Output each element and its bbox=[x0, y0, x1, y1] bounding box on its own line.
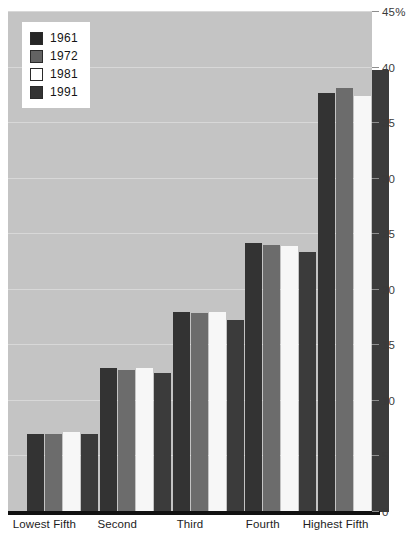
y-axis-tick-label: 45% bbox=[382, 5, 406, 19]
bar bbox=[299, 252, 316, 512]
legend-item-label: 1972 bbox=[50, 49, 78, 63]
bar bbox=[245, 243, 262, 512]
bar bbox=[136, 368, 153, 512]
y-axis-tick-label: 30 bbox=[382, 172, 395, 186]
legend-item-label: 1981 bbox=[50, 67, 78, 81]
legend-item: 1991 bbox=[30, 83, 78, 101]
tick-mark bbox=[372, 67, 379, 68]
x-axis-labels: Lowest FifthSecondThirdFourthHighest Fif… bbox=[8, 518, 372, 538]
bar-group bbox=[100, 12, 171, 512]
bar bbox=[27, 434, 44, 512]
y-axis-tick: 40 bbox=[372, 61, 408, 75]
tick-mark bbox=[372, 122, 379, 123]
x-axis-label: Lowest Fifth bbox=[8, 518, 81, 530]
y-axis-tick-label: 15 bbox=[382, 338, 395, 352]
bar bbox=[263, 245, 280, 512]
y-axis-tick-label: 25 bbox=[382, 227, 395, 241]
y-axis-tick-label: 5 bbox=[382, 449, 389, 463]
bar-group bbox=[173, 12, 244, 512]
tick-mark bbox=[372, 400, 379, 401]
y-axis-tick-label: 20 bbox=[382, 283, 395, 297]
tick-mark bbox=[372, 511, 379, 512]
x-axis-label: Highest Fifth bbox=[299, 518, 372, 530]
x-axis-label: Second bbox=[81, 518, 154, 530]
bar bbox=[63, 432, 80, 512]
y-axis-tick: 30 bbox=[372, 172, 408, 186]
tick-mark bbox=[372, 11, 379, 12]
legend-swatch bbox=[30, 32, 43, 45]
tick-mark bbox=[372, 289, 379, 290]
legend-swatch bbox=[30, 50, 43, 63]
legend-swatch bbox=[30, 68, 43, 81]
y-axis-tick: 45% bbox=[372, 5, 408, 19]
bar bbox=[336, 88, 353, 512]
y-axis-tick: 35 bbox=[372, 116, 408, 130]
y-axis-tick-label: 40 bbox=[382, 61, 395, 75]
legend-item: 1981 bbox=[30, 65, 78, 83]
tick-mark bbox=[372, 178, 379, 179]
y-axis-tick: 25 bbox=[372, 227, 408, 241]
y-axis-tick: 10 bbox=[372, 394, 408, 408]
bar bbox=[281, 246, 298, 512]
bar bbox=[173, 312, 190, 512]
legend: 1961197219811991 bbox=[22, 22, 90, 108]
x-axis-label: Third bbox=[154, 518, 227, 530]
x-axis-line bbox=[8, 511, 380, 515]
y-axis-tick-label: 10 bbox=[382, 394, 395, 408]
y-axis: 051015202530354045% bbox=[372, 0, 408, 540]
bar bbox=[100, 368, 117, 512]
bar-chart: 051015202530354045% Lowest FifthSecondTh… bbox=[0, 0, 408, 540]
bar bbox=[354, 96, 371, 512]
tick-mark bbox=[372, 344, 379, 345]
tick-mark bbox=[372, 233, 379, 234]
legend-item: 1972 bbox=[30, 47, 78, 65]
x-axis-label: Fourth bbox=[226, 518, 299, 530]
y-axis-tick-label: 0 bbox=[382, 505, 389, 519]
legend-item-label: 1961 bbox=[50, 31, 78, 45]
legend-item: 1961 bbox=[30, 29, 78, 47]
y-axis-tick: 0 bbox=[372, 505, 408, 519]
bar bbox=[45, 434, 62, 512]
y-axis-tick: 20 bbox=[372, 283, 408, 297]
bar-group bbox=[245, 12, 316, 512]
bar bbox=[227, 320, 244, 512]
y-axis-tick-label: 35 bbox=[382, 116, 395, 130]
bar bbox=[154, 373, 171, 512]
bar bbox=[209, 312, 226, 512]
y-axis-tick: 5 bbox=[372, 449, 408, 463]
bar bbox=[81, 434, 98, 512]
tick-mark bbox=[372, 455, 379, 456]
legend-item-label: 1991 bbox=[50, 85, 78, 99]
y-axis-tick: 15 bbox=[372, 338, 408, 352]
bar bbox=[318, 93, 335, 512]
legend-swatch bbox=[30, 86, 43, 99]
bar bbox=[118, 370, 135, 512]
bar bbox=[191, 313, 208, 512]
